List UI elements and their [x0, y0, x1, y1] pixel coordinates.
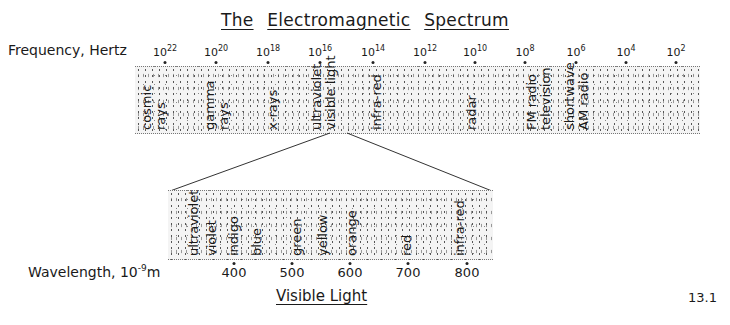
region-label: green: [290, 218, 303, 256]
region-label: blue: [250, 228, 263, 256]
region-label: orange: [345, 210, 358, 256]
wavelength-tick-label: 600: [338, 265, 363, 280]
wavelength-tick-label: 400: [222, 265, 247, 280]
visible-light-subtitle: Visible Light: [276, 287, 367, 305]
region-label: infra-red: [453, 200, 466, 256]
figure-number: 13.1: [688, 290, 717, 305]
wavelength-tick-label: 700: [396, 265, 421, 280]
region-label: ultraviolet: [187, 190, 200, 256]
region-label: red: [400, 235, 413, 256]
wavelength-tick-label: 800: [455, 265, 480, 280]
region-label: yellow: [316, 214, 329, 256]
region-label: indigo: [227, 216, 240, 256]
wavelength-axis-label: Wavelength, 10-9m: [28, 263, 160, 280]
wavelength-tick-label: 500: [280, 265, 305, 280]
region-label: violet: [205, 220, 218, 256]
